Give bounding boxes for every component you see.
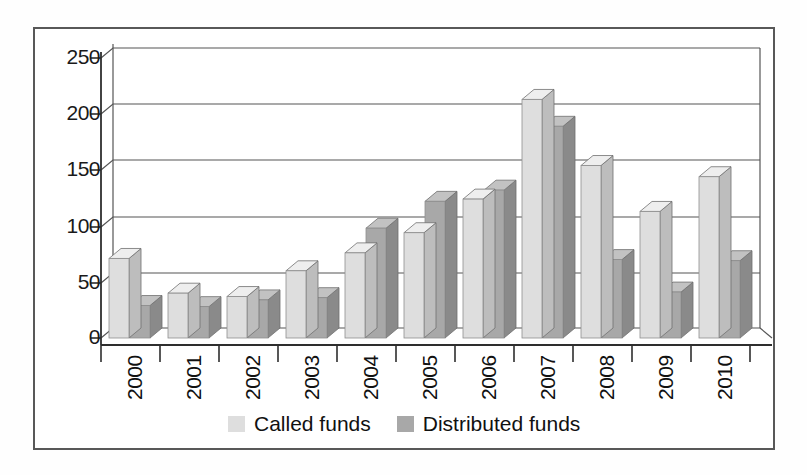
- x-tick-label: 2009: [654, 355, 678, 400]
- y-tick-label: 50: [38, 270, 100, 294]
- x-tick-label: 2008: [595, 355, 619, 400]
- x-tick-label: 2001: [182, 355, 206, 400]
- y-axis-labels: 250 200 150 100 50 0: [38, 0, 100, 475]
- x-tick-label: 2005: [418, 355, 442, 400]
- chart-figure: .gl{stroke:#555;stroke-width:1.2;fill:no…: [0, 0, 807, 475]
- x-tick-label: 2002: [241, 355, 265, 400]
- x-tick-label: 2000: [123, 355, 147, 400]
- x-tick-label: 2004: [359, 355, 383, 400]
- x-tick-label: 2010: [713, 355, 737, 400]
- legend-swatch-icon: [397, 416, 414, 432]
- y-tick-label: 250: [38, 45, 100, 69]
- y-tick-label: 200: [38, 101, 100, 125]
- y-tick-label: 100: [38, 214, 100, 238]
- x-tick-label: 2007: [536, 355, 560, 400]
- y-tick-label: 0: [38, 325, 100, 349]
- x-tick-label: 2003: [300, 355, 324, 400]
- legend-swatch-icon: [228, 416, 245, 432]
- x-tick-label: 2006: [477, 355, 501, 400]
- legend-entry-distributed: Distributed funds: [397, 412, 581, 436]
- legend-label: Distributed funds: [423, 412, 581, 436]
- legend-label: Called funds: [254, 412, 371, 436]
- chart-legend: Called funds Distributed funds: [228, 412, 580, 436]
- y-tick-label: 150: [38, 157, 100, 181]
- legend-entry-called: Called funds: [228, 412, 371, 436]
